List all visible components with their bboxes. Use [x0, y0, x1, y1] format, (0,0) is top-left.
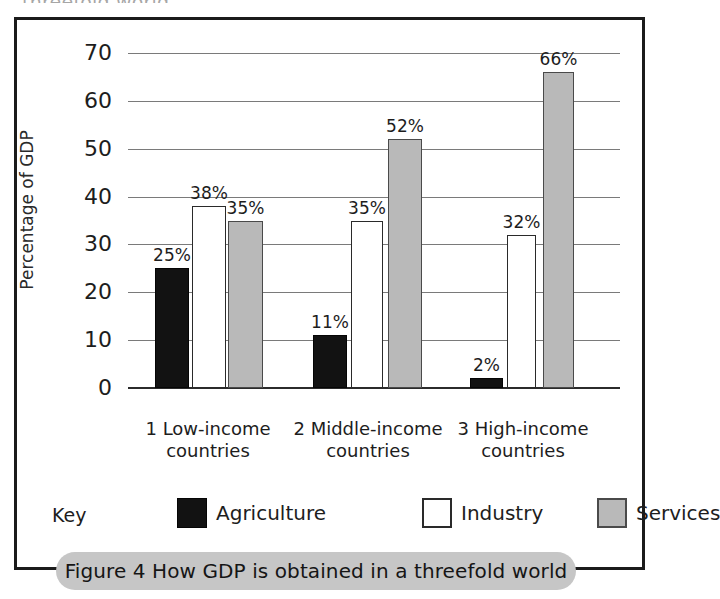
y-tick-label: 50 — [56, 138, 112, 160]
legend-item-services[interactable]: Services — [597, 495, 720, 531]
y-tick-label: 40 — [56, 186, 112, 208]
y-axis-line — [128, 53, 129, 389]
category-label-2: 2 Middle-income countries — [278, 418, 458, 462]
bar-value-label: 11% — [300, 314, 360, 331]
legend-title: Key — [52, 504, 86, 526]
legend-item-agriculture[interactable]: Agriculture — [177, 495, 326, 531]
legend-swatch-services-icon — [597, 498, 627, 528]
y-tick-label: 30 — [56, 233, 112, 255]
bar-agriculture-group2 — [313, 335, 347, 388]
y-tick-label: 60 — [56, 90, 112, 112]
y-tick-label: 20 — [56, 281, 112, 303]
legend-label-services: Services — [636, 501, 720, 525]
bar-value-label: 2% — [457, 357, 517, 374]
bar-agriculture-group1 — [155, 268, 189, 388]
bar-value-label: 66% — [529, 51, 589, 68]
figure-caption-pill: Figure 4 How GDP is obtained in a threef… — [56, 552, 576, 590]
y-tick-label: 0 — [56, 377, 112, 399]
bar-agriculture-group3 — [470, 378, 503, 388]
legend-swatch-agriculture-icon — [177, 498, 207, 528]
category-label-3: 3 High-income countries — [433, 418, 613, 462]
category-label-1: 1 Low-income countries — [118, 418, 298, 462]
y-tick-label: 10 — [56, 329, 112, 351]
bar-industry-group2 — [351, 221, 383, 389]
bar-value-label: 35% — [337, 200, 397, 217]
legend-item-industry[interactable]: Industry — [422, 495, 543, 531]
bar-value-label: 52% — [375, 118, 435, 135]
bar-value-label: 35% — [216, 200, 276, 217]
figure-caption-text: Figure 4 How GDP is obtained in a threef… — [65, 559, 568, 583]
bar-value-label: 25% — [142, 247, 202, 264]
legend-label-agriculture: Agriculture — [216, 501, 326, 525]
y-tick-label: 70 — [56, 42, 112, 64]
legend-label-industry: Industry — [461, 501, 543, 525]
bar-industry-group1 — [192, 206, 226, 388]
bar-services-group1 — [228, 221, 263, 389]
legend-swatch-industry-icon — [422, 498, 452, 528]
bar-value-label: 32% — [492, 214, 552, 231]
bar-services-group2 — [388, 139, 422, 388]
chart-legend: Key AgricultureIndustryServices — [52, 495, 612, 535]
y-axis-title: Percentage of GDP — [17, 120, 37, 300]
